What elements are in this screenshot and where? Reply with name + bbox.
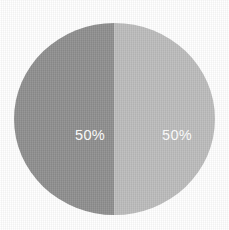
pie-slice-2-label: 50%	[147, 128, 207, 143]
pie-slice-2[interactable]	[115, 23, 216, 215]
pie-slice-1-label: 50%	[60, 128, 120, 143]
pie-svg	[14, 23, 215, 215]
pie-chart: 50% 50%	[0, 0, 229, 230]
pie-graphic: 50% 50%	[14, 23, 215, 215]
pie-slice-1[interactable]	[14, 23, 115, 215]
